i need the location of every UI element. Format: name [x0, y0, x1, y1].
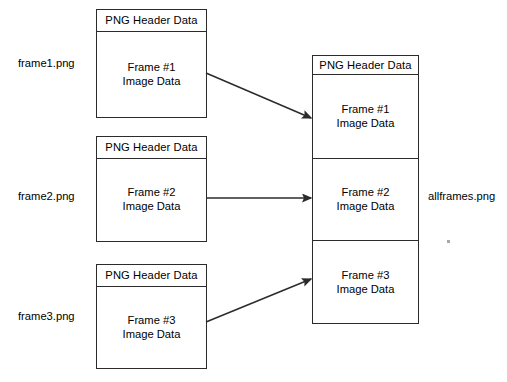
- frame-number-label: Frame #3: [128, 314, 176, 328]
- arrow-frame1-to-destination: [206, 73, 311, 118]
- source-png-box-frame3: PNG Header Data Frame #3 Image Data: [96, 264, 207, 369]
- frame-number-label: Frame #1: [342, 103, 390, 117]
- png-header-label: PNG Header Data: [97, 137, 206, 159]
- file-label-frame3-png: frame3.png: [18, 310, 75, 322]
- file-label-frame2-png: frame2.png: [18, 190, 75, 202]
- destination-section-frame3: Frame #3 Image Data: [313, 241, 418, 325]
- file-label-allframes-png: allframes.png: [428, 190, 495, 202]
- png-header-label: PNG Header Data: [97, 10, 206, 32]
- image-data-label: Image Data: [123, 328, 181, 342]
- destination-section-frame1: Frame #1 Image Data: [313, 75, 418, 159]
- image-data-label: Image Data: [123, 200, 181, 214]
- frame-number-label: Frame #2: [342, 186, 390, 200]
- file-label-frame1-png: frame1.png: [18, 57, 75, 69]
- destination-png-box-allframes: PNG Header Data Frame #1 Image Data Fram…: [312, 55, 419, 324]
- image-data-section: Frame #2 Image Data: [97, 159, 206, 241]
- frame-number-label: Frame #2: [128, 186, 176, 200]
- source-png-box-frame1: PNG Header Data Frame #1 Image Data: [96, 9, 207, 118]
- arrow-frame3-to-destination: [206, 279, 311, 322]
- diagram-canvas: PNG Header Data Frame #1 Image Data PNG …: [0, 0, 507, 382]
- image-data-label: Image Data: [337, 200, 395, 214]
- image-data-section: Frame #3 Image Data: [97, 287, 206, 368]
- destination-section-frame2: Frame #2 Image Data: [313, 159, 418, 241]
- image-data-label: Image Data: [337, 117, 395, 131]
- scan-speck-artifact: [447, 240, 450, 243]
- frame-number-label: Frame #1: [128, 61, 176, 75]
- image-data-label: Image Data: [123, 75, 181, 89]
- image-data-section: Frame #1 Image Data: [97, 32, 206, 117]
- image-data-label: Image Data: [337, 283, 395, 297]
- png-header-label: PNG Header Data: [313, 56, 418, 75]
- source-png-box-frame2: PNG Header Data Frame #2 Image Data: [96, 136, 207, 242]
- frame-number-label: Frame #3: [342, 269, 390, 283]
- png-header-label: PNG Header Data: [97, 265, 206, 287]
